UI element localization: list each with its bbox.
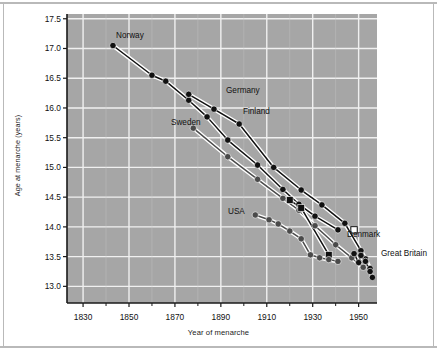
y-tick-label: 13.0: [19, 281, 61, 291]
chart-figure: Age at menarche (years) Year of menarche…: [0, 0, 437, 350]
series-label-norway: Norway: [116, 31, 144, 40]
x-tick-label: 1930: [293, 312, 333, 322]
data-point-square: [286, 197, 293, 204]
data-point-circle: [280, 186, 286, 192]
y-tick-label: 16.0: [19, 103, 61, 113]
series-label-germany: Germany: [226, 86, 260, 95]
data-point-circle: [312, 222, 318, 228]
data-point-square: [298, 204, 305, 211]
data-point-circle: [280, 195, 286, 201]
data-point-circle: [252, 212, 258, 218]
data-point-circle: [204, 114, 210, 120]
y-tick-label: 17.0: [19, 43, 61, 53]
series-label-denmark: Denmark: [347, 230, 380, 239]
data-point-circle: [186, 91, 192, 97]
data-point-circle: [335, 227, 341, 233]
data-point-circle: [369, 274, 375, 280]
data-point-circle: [254, 162, 260, 168]
data-point-circle: [316, 255, 322, 261]
data-point-circle: [163, 78, 169, 84]
data-point-circle: [342, 220, 348, 226]
series-label-sweden: Sweden: [171, 118, 201, 127]
data-point-circle: [254, 176, 260, 182]
data-point-circle: [362, 258, 368, 264]
data-point-circle: [355, 259, 361, 265]
data-point-circle: [312, 213, 318, 219]
data-point-circle: [287, 228, 293, 234]
x-tick-label: 1830: [63, 312, 103, 322]
x-axis-title: Year of menarche: [0, 328, 437, 337]
data-point-circle: [319, 202, 325, 208]
data-point-circle: [186, 97, 192, 103]
data-point-circle: [335, 258, 341, 264]
data-point-circle: [275, 221, 281, 227]
x-tick-label: 1870: [155, 312, 195, 322]
chart-plot: [0, 0, 437, 350]
data-point-circle: [307, 252, 313, 258]
data-point-circle: [266, 217, 272, 223]
y-tick-label: 15.0: [19, 162, 61, 172]
y-tick-label: 14.5: [19, 192, 61, 202]
data-point-circle: [298, 187, 304, 193]
series-label-usa: USA: [228, 207, 245, 216]
y-axis-title: Age at menarche (years): [14, 114, 23, 195]
data-point-circle: [332, 242, 338, 248]
y-tick-label: 16.5: [19, 73, 61, 83]
data-point-circle: [270, 164, 276, 170]
data-point-circle: [225, 154, 231, 160]
data-point-circle: [236, 121, 242, 127]
data-point-circle: [326, 256, 332, 262]
x-tick-label: 1910: [247, 312, 287, 322]
series-label-finland: Finland: [243, 107, 270, 116]
data-point-circle: [351, 250, 357, 256]
data-point-circle: [211, 106, 217, 112]
data-point-circle: [298, 236, 304, 242]
y-tick-label: 17.5: [19, 14, 61, 24]
x-tick-label: 1850: [109, 312, 149, 322]
data-point-circle: [358, 252, 364, 258]
y-tick-label: 14.0: [19, 222, 61, 232]
data-point-circle: [149, 72, 155, 78]
series-label-great-britain: Great Britain: [381, 249, 427, 258]
y-tick-label: 15.5: [19, 133, 61, 143]
data-point-circle: [367, 268, 373, 274]
y-tick-label: 13.5: [19, 252, 61, 262]
x-tick-label: 1950: [339, 312, 379, 322]
x-tick-label: 1890: [201, 312, 241, 322]
data-point-circle: [225, 137, 231, 143]
data-point-circle: [110, 42, 116, 48]
